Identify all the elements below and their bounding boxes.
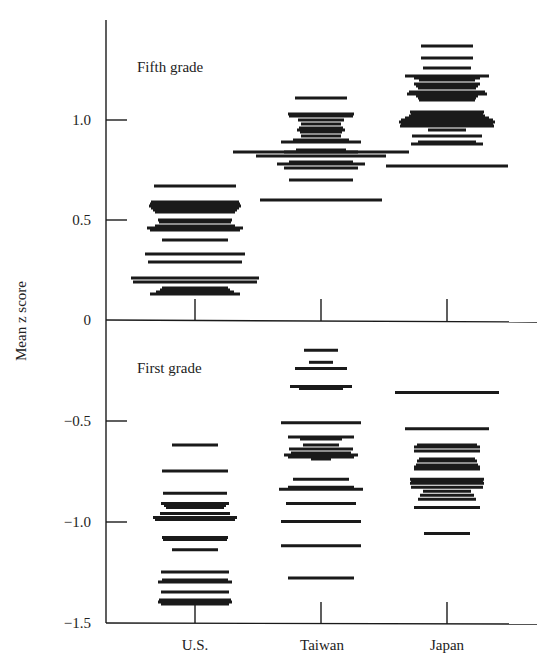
y-tick-label: 0.5 xyxy=(72,212,91,228)
category-label-us: U.S. xyxy=(182,637,209,653)
y-tick-label: −1.0 xyxy=(64,514,91,530)
category-label-taiwan: Taiwan xyxy=(300,637,344,653)
category-label-japan: Japan xyxy=(430,637,465,653)
strip-chart: 1.0 0.5 0 −0.5 −1.0 −1.5 Mean z score Fi… xyxy=(0,0,555,663)
data-strips xyxy=(131,46,508,604)
y-tick-label: −1.5 xyxy=(64,615,91,631)
panel-label-fifth-grade: Fifth grade xyxy=(137,59,204,75)
y-tick-label: −0.5 xyxy=(64,413,91,429)
y-axis-title: Mean z score xyxy=(13,281,29,361)
y-tick-label: 0 xyxy=(84,312,92,328)
y-tick-label: 1.0 xyxy=(72,112,91,128)
panel-label-first-grade: First grade xyxy=(137,360,202,376)
